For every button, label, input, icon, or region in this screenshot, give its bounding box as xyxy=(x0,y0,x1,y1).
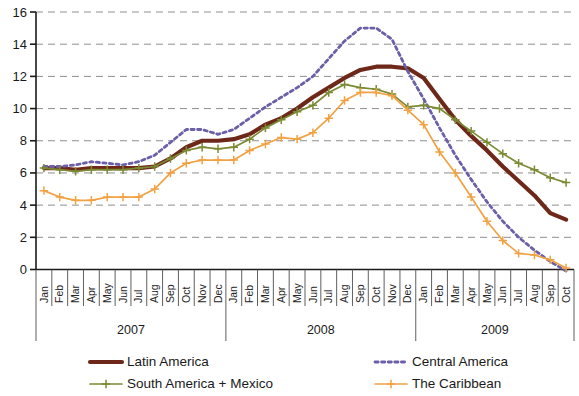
x-tick-label-month: Jun xyxy=(496,286,508,303)
x-axis-year-label: 2007 xyxy=(117,323,145,337)
x-tick-label-month: May xyxy=(101,282,113,303)
chart-legend: Latin AmericaCentral AmericaSouth Americ… xyxy=(90,354,509,391)
x-tick-label-month: Mar xyxy=(69,284,81,303)
data-point-marker xyxy=(198,156,206,164)
x-tick-label-month: Nov xyxy=(196,284,208,303)
data-series-layer xyxy=(40,28,571,272)
x-tick-label-month: Feb xyxy=(433,285,445,303)
x-axis-year-label: 2009 xyxy=(481,323,509,337)
legend-item-south-america-mexico[interactable]: South America + Mexico xyxy=(90,376,273,391)
legend-label-latin-america: Latin America xyxy=(127,354,209,369)
data-point-marker xyxy=(546,174,554,182)
x-tick-label-month: Apr xyxy=(275,286,287,303)
y-axis-ticks: 0246810121416 xyxy=(13,5,36,278)
x-tick-label-month: Jul xyxy=(322,290,334,303)
series-line xyxy=(44,92,566,267)
y-tick-label: 12 xyxy=(13,69,27,84)
line-chart: 0246810121416 JanFebMarAprMayJunJulAugSe… xyxy=(0,0,579,396)
x-tick-label-month: Aug xyxy=(338,284,350,303)
data-point-marker xyxy=(293,135,301,143)
chart-canvas: 0246810121416 JanFebMarAprMayJunJulAugSe… xyxy=(0,0,579,396)
y-tick-label: 0 xyxy=(20,262,27,277)
x-tick-label-month: Jul xyxy=(132,290,144,303)
x-tick-label-month: Sep xyxy=(354,284,366,303)
y-tick-label: 8 xyxy=(20,133,27,148)
data-point-marker xyxy=(230,143,238,151)
data-point-marker xyxy=(214,156,222,164)
legend-marker-the-caribbean xyxy=(387,380,395,388)
x-tick-label-month: Mar xyxy=(449,284,461,303)
x-tick-label-month: Dec xyxy=(212,284,224,303)
data-point-marker xyxy=(119,193,127,201)
data-point-marker xyxy=(56,193,64,201)
x-tick-label-month: Oct xyxy=(180,287,192,303)
data-point-marker xyxy=(103,193,111,201)
x-tick-label-month: May xyxy=(291,282,303,303)
x-tick-label-month: Jan xyxy=(227,286,239,303)
x-tick-label-month: Jan xyxy=(38,286,50,303)
legend-marker-south-america-mexico xyxy=(102,380,110,388)
x-tick-label-month: Apr xyxy=(465,286,477,303)
data-point-marker xyxy=(514,159,522,167)
data-point-marker xyxy=(40,186,48,194)
data-point-marker xyxy=(135,164,143,172)
x-tick-label-month: Mar xyxy=(259,284,271,303)
x-axis-year-groups: 200720082009 xyxy=(36,306,574,341)
legend-item-latin-america[interactable]: Latin America xyxy=(90,354,209,369)
x-tick-label-month: Apr xyxy=(85,286,97,303)
x-tick-label-month: Sep xyxy=(544,284,556,303)
x-tick-label-month: Oct xyxy=(370,287,382,303)
legend-label-the-caribbean: The Caribbean xyxy=(412,376,501,391)
legend-item-the-caribbean[interactable]: The Caribbean xyxy=(375,376,501,391)
gridlines xyxy=(36,12,574,270)
x-tick-label-month: Jun xyxy=(117,286,129,303)
x-tick-label-month: Nov xyxy=(386,284,398,303)
legend-label-central-america: Central America xyxy=(412,354,509,369)
y-tick-label: 16 xyxy=(13,5,27,20)
y-tick-label: 10 xyxy=(13,101,27,116)
x-tick-label-month: Jan xyxy=(417,286,429,303)
x-tick-label-month: Jun xyxy=(307,286,319,303)
x-tick-label-month: Jul xyxy=(512,290,524,303)
legend-label-south-america-mexico: South America + Mexico xyxy=(127,376,273,391)
x-tick-label-month: Feb xyxy=(53,285,65,303)
y-tick-label: 4 xyxy=(20,198,27,213)
data-point-marker xyxy=(214,145,222,153)
data-point-marker xyxy=(71,196,79,204)
series-south-america-mexico xyxy=(40,80,571,187)
data-point-marker xyxy=(182,159,190,167)
x-tick-label-month: May xyxy=(481,282,493,303)
y-tick-label: 14 xyxy=(13,37,27,52)
data-point-marker xyxy=(135,193,143,201)
data-point-marker xyxy=(230,156,238,164)
x-tick-label-month: Oct xyxy=(560,287,572,303)
y-tick-label: 6 xyxy=(20,165,27,180)
x-axis-year-label: 2008 xyxy=(307,323,335,337)
data-point-marker xyxy=(87,196,95,204)
data-point-marker xyxy=(356,88,364,96)
x-tick-label-month: Dec xyxy=(401,284,413,303)
series-the-caribbean xyxy=(40,88,571,272)
x-tick-label-month: Aug xyxy=(148,284,160,303)
legend-item-central-america[interactable]: Central America xyxy=(375,354,509,369)
data-point-marker xyxy=(198,143,206,151)
x-axis-month-ticks: JanFebMarAprMayJunJulAugSepOctNovDecJanF… xyxy=(36,270,574,307)
data-point-marker xyxy=(245,146,253,154)
x-tick-label-month: Sep xyxy=(164,284,176,303)
x-tick-label-month: Feb xyxy=(243,285,255,303)
data-point-marker xyxy=(562,178,570,186)
y-tick-label: 2 xyxy=(20,230,27,245)
x-tick-label-month: Aug xyxy=(528,284,540,303)
